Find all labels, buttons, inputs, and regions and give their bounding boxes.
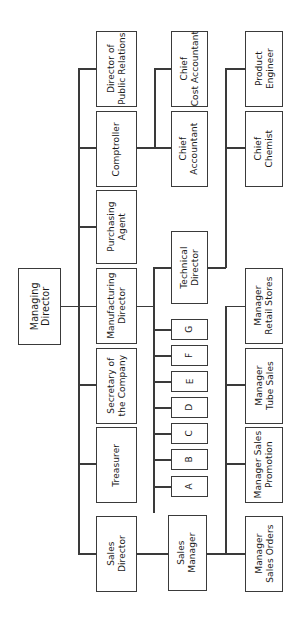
connector-trunk-to-secretary (78, 384, 96, 386)
node-chief-accountant[interactable]: Chief Accountant (171, 111, 208, 187)
connector-to-manager-sales-orders (225, 553, 245, 555)
connector-trunk-to-comptroller (78, 147, 96, 149)
node-manager-sales-promotion[interactable]: Manager Sales Promotion (245, 427, 283, 503)
node-label: B (184, 456, 195, 462)
node-purchasing-agent[interactable]: Purchasing Agent (96, 190, 137, 264)
node-label: Technical Director (179, 246, 200, 288)
connector-to-unit-d (153, 407, 171, 409)
node-label: D (184, 404, 195, 411)
connector-to-unit-f (153, 355, 171, 357)
node-manufacturing-director[interactable]: Manufacturing Director (96, 268, 137, 344)
node-unit-c[interactable]: C (171, 423, 208, 444)
node-unit-d[interactable]: D (171, 397, 208, 418)
node-chief-chemist[interactable]: Chief Chemist (245, 111, 283, 187)
node-label: Secretary of the Company (106, 355, 127, 417)
node-label: Manager Sales Promotion (253, 431, 274, 499)
node-secretary-of-company[interactable]: Secretary of the Company (96, 348, 137, 424)
connector-to-chief-cost-accountant (154, 68, 171, 70)
org-chart: Managing Director Director of Public Rel… (0, 0, 305, 626)
node-unit-b[interactable]: B (171, 449, 208, 470)
connector-trunk-to-purchasing-agent (78, 226, 96, 228)
connector-sales-director-stem (137, 553, 168, 555)
node-unit-e[interactable]: E (171, 371, 208, 392)
connector-to-chief-accountant (154, 147, 171, 149)
node-managing-director[interactable]: Managing Director (18, 268, 61, 345)
connector-main-trunk (78, 68, 80, 554)
node-label: Chief Accountant (179, 123, 200, 175)
node-label: E (184, 379, 195, 385)
node-label: Chief Cost Accountant (179, 31, 200, 106)
node-label: Manager Sales Orders (253, 525, 274, 583)
node-director-public-relations[interactable]: Director of Public Relations (96, 31, 137, 107)
node-unit-g[interactable]: G (171, 319, 208, 340)
node-manager-sales-orders[interactable]: Manager Sales Orders (245, 516, 283, 592)
node-label: Comptroller (111, 122, 122, 176)
connector-comptroller-stem (137, 147, 155, 149)
node-label: Purchasing Agent (106, 202, 127, 252)
node-comptroller[interactable]: Comptroller (96, 111, 137, 187)
node-label: Manager Retail Stores (253, 277, 274, 335)
node-label: Manager Tube Sales (253, 362, 274, 411)
connector-trunk-to-manufacturing-director (78, 306, 96, 308)
node-technical-director[interactable]: Technical Director (171, 231, 208, 304)
connector-technical-children-trunk (225, 68, 227, 268)
node-label: Manufacturing Director (106, 273, 127, 339)
connector-to-unit-e (153, 381, 171, 383)
connector-to-manager-tube-sales (225, 384, 245, 386)
node-label: Managing Director (28, 283, 51, 331)
node-manager-tube-sales[interactable]: Manager Tube Sales (245, 348, 283, 424)
connector-technical-director-stem (208, 267, 226, 269)
connector-trunk-to-treasurer (78, 463, 96, 465)
connector-to-product-engineer (225, 68, 245, 70)
connector-to-manager-retail-stores (225, 306, 245, 308)
node-label: Treasurer (111, 444, 122, 487)
node-sales-manager[interactable]: Sales Manager (168, 515, 207, 591)
node-unit-a[interactable]: A (171, 476, 208, 497)
connector-accountants-trunk (154, 68, 156, 148)
node-manager-retail-stores[interactable]: Manager Retail Stores (245, 268, 283, 344)
connector-managers-trunk (225, 306, 227, 555)
connector-trunk-to-public-relations (78, 68, 96, 70)
connector-to-technical-director (153, 267, 171, 269)
connector-to-chief-chemist (225, 147, 245, 149)
node-chief-cost-accountant[interactable]: Chief Cost Accountant (171, 31, 208, 107)
connector-technical-branch-trunk (153, 267, 155, 513)
node-treasurer[interactable]: Treasurer (96, 427, 137, 503)
connector-md-stem (61, 306, 79, 308)
connector-trunk-to-sales-director (78, 553, 96, 555)
connector-sales-manager-stem (207, 553, 226, 555)
node-label: Sales Manager (177, 533, 198, 573)
node-label: Director of Public Relations (106, 33, 127, 105)
connector-to-unit-a (153, 486, 171, 488)
connector-to-manager-sales-promotion (225, 463, 245, 465)
node-product-engineer[interactable]: Product Engineer (245, 31, 283, 107)
node-label: G (184, 326, 195, 333)
node-sales-director[interactable]: Sales Director (96, 516, 137, 592)
node-label: Chief Chemist (253, 130, 274, 168)
connector-to-unit-c (153, 433, 171, 435)
connector-to-unit-g (153, 329, 171, 331)
node-label: C (184, 430, 195, 436)
node-label: Product Engineer (253, 49, 274, 90)
connector-to-unit-b (153, 459, 171, 461)
node-unit-f[interactable]: F (171, 345, 208, 366)
node-label: Sales Director (106, 536, 127, 573)
node-label: A (184, 483, 195, 489)
node-label: F (184, 353, 195, 358)
